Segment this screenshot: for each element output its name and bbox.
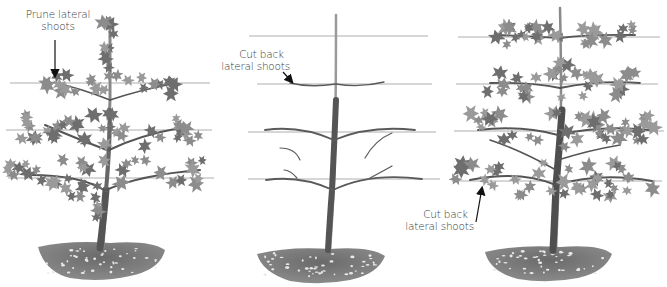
stone <box>361 272 363 273</box>
stone <box>110 266 112 268</box>
leaf <box>613 29 627 43</box>
leaf <box>622 185 633 196</box>
stone <box>285 266 289 269</box>
stone <box>592 265 594 267</box>
leaf <box>13 130 29 146</box>
leaf <box>197 155 207 165</box>
stone <box>538 259 540 262</box>
stone <box>75 256 78 258</box>
leaf <box>135 137 154 156</box>
stone <box>355 270 357 271</box>
stone <box>521 250 525 253</box>
annotation-line-1: Cut back <box>384 208 474 220</box>
stone <box>524 258 528 260</box>
stone <box>512 252 514 254</box>
stone <box>302 259 304 261</box>
annotation-prune-lateral-shoots: Prune lateral shoots <box>18 8 98 32</box>
stone <box>309 256 312 258</box>
stone <box>550 254 554 255</box>
stone <box>540 266 542 268</box>
stone <box>93 258 96 261</box>
stone <box>308 271 310 272</box>
stone <box>344 273 348 275</box>
illustration-canvas <box>0 0 667 287</box>
stone <box>67 272 70 274</box>
leaf <box>138 153 154 169</box>
leaf <box>120 72 136 88</box>
stone <box>536 256 539 257</box>
stone <box>100 254 103 256</box>
stone <box>350 256 354 259</box>
stone <box>47 272 49 274</box>
stone <box>46 262 48 264</box>
stone <box>313 268 317 270</box>
stone <box>155 261 157 262</box>
stone <box>110 271 113 274</box>
stone <box>559 251 563 254</box>
stone <box>496 258 499 259</box>
stone <box>103 261 105 263</box>
annotation-line-1: Cut back <box>200 48 290 60</box>
stone <box>85 259 88 262</box>
stone <box>331 253 334 255</box>
leaf <box>175 174 188 187</box>
stone <box>264 256 266 259</box>
stone <box>298 270 301 272</box>
stone <box>524 272 526 274</box>
annotation-line-2: shoots <box>18 20 98 32</box>
leaf <box>74 190 86 202</box>
leaf <box>530 133 545 148</box>
stone <box>542 251 545 253</box>
soil-mound <box>485 246 612 281</box>
stone <box>72 267 74 269</box>
stone <box>267 260 270 262</box>
stone <box>84 271 86 272</box>
stone <box>543 272 545 274</box>
stone <box>561 270 565 271</box>
annotation-cut-back-lateral-shoots-2: Cut back lateral shoots <box>384 208 474 232</box>
stone <box>314 266 318 267</box>
annotation-cut-back-lateral-shoots-1: Cut back lateral shoots <box>200 48 290 72</box>
stone <box>366 264 370 266</box>
stone <box>509 268 511 270</box>
stone <box>91 270 95 272</box>
leaf <box>135 71 147 83</box>
leaf <box>92 181 102 191</box>
stone <box>543 255 547 256</box>
leaf <box>563 163 575 175</box>
stone <box>70 255 72 256</box>
stone <box>315 272 319 273</box>
leaf <box>508 172 523 187</box>
pointer-arrow <box>283 72 292 82</box>
stone <box>81 272 85 274</box>
stone <box>312 273 314 275</box>
stone <box>523 268 527 270</box>
pointer-arrow <box>476 188 482 222</box>
stone <box>86 257 88 259</box>
stone <box>133 257 136 259</box>
panel-1 <box>0 13 214 280</box>
stone <box>538 262 542 265</box>
stone <box>349 272 353 274</box>
stone <box>558 269 561 271</box>
stone <box>361 266 364 267</box>
annotation-line-1: Prune lateral <box>18 8 98 20</box>
stone <box>104 250 106 252</box>
stone <box>113 249 116 250</box>
stone <box>570 254 572 256</box>
stone <box>567 255 570 257</box>
leaf <box>500 38 513 51</box>
stone <box>555 262 558 263</box>
stone <box>275 254 277 257</box>
stone <box>308 275 310 277</box>
stone <box>121 268 124 270</box>
stone <box>555 256 557 257</box>
stone <box>113 263 115 264</box>
stone <box>67 260 69 262</box>
stone <box>519 255 523 257</box>
leaf <box>56 153 70 167</box>
stone <box>315 257 317 260</box>
stone <box>273 252 275 254</box>
leaf <box>138 82 150 94</box>
stone <box>362 261 366 263</box>
